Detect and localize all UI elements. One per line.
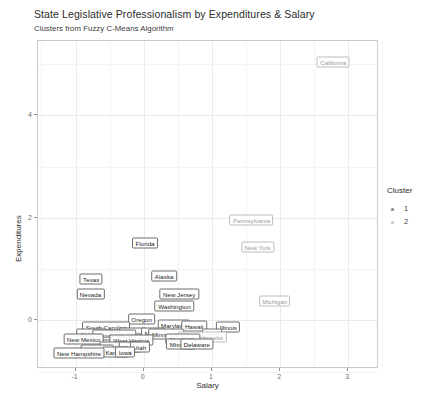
chart-title: State Legislative Professionalism by Exp…: [34, 8, 315, 20]
point-label: Delaware: [180, 339, 213, 350]
point-label: California: [317, 56, 350, 67]
x-tick-label: -1: [71, 373, 77, 380]
point-label: New Jersey: [160, 288, 199, 299]
point-label: Texas: [80, 274, 103, 285]
legend-item-label: 1: [404, 204, 408, 213]
gridline-minor-vertical: [41, 41, 42, 367]
y-tick-label: 4: [21, 111, 32, 118]
point-label: Florida: [132, 238, 158, 249]
point-label: Michigan: [259, 295, 291, 306]
gridline-minor-vertical: [314, 41, 315, 367]
legend-key-icon: a: [386, 202, 399, 215]
x-tick-label: 1: [209, 373, 213, 380]
x-tick-label: 3: [345, 373, 349, 380]
point-label: Pennsylvania: [230, 214, 274, 225]
legend-title: Cluster: [387, 186, 412, 195]
y-tick-label: 0: [21, 316, 32, 323]
gridline-horizontal: [38, 218, 377, 219]
gridline-horizontal: [38, 115, 377, 116]
gridline-minor-vertical: [110, 41, 111, 367]
gridline-minor-horizontal: [38, 372, 377, 373]
y-tick-mark: [34, 114, 37, 115]
x-tick-mark: [279, 368, 280, 371]
gridline-minor-vertical: [246, 41, 247, 367]
x-tick-mark: [347, 368, 348, 371]
x-tick-mark: [143, 368, 144, 371]
gridline-vertical: [348, 41, 349, 367]
point-label: New Hampshire: [53, 348, 104, 359]
y-tick-mark: [34, 319, 37, 320]
x-tick-mark: [75, 368, 76, 371]
gridline-vertical: [76, 41, 77, 367]
point-label: Nevada: [76, 288, 104, 299]
legend-item-label: 2: [404, 217, 408, 226]
gridline-vertical: [280, 41, 281, 367]
gridline-minor-vertical: [382, 41, 383, 367]
x-axis-title: Salary: [37, 381, 378, 390]
legend-key-icon: a: [386, 215, 399, 228]
chart-root: State Legislative Professionalism by Exp…: [0, 0, 437, 406]
gridline-minor-horizontal: [38, 167, 377, 168]
point-label: Washington: [155, 300, 194, 311]
chart-subtitle: Clusters from Fuzzy C-Means Algorithm: [34, 24, 174, 33]
plot-panel: CaliforniaPennsylvaniaNew YorkFloridaAla…: [37, 40, 378, 368]
point-label: Iowa: [115, 347, 135, 358]
legend-item[interactable]: a1: [386, 202, 412, 215]
gridline-minor-horizontal: [38, 269, 377, 270]
x-tick-label: 2: [277, 373, 281, 380]
x-tick-label: 0: [141, 373, 145, 380]
y-tick-mark: [34, 217, 37, 218]
x-tick-mark: [211, 368, 212, 371]
point-label: New Mexico: [63, 333, 104, 344]
y-axis-title: Expenditures: [14, 215, 23, 262]
point-label: Alaska: [151, 271, 177, 282]
gridline-minor-vertical: [178, 41, 179, 367]
legend: Cluster a1a2: [386, 186, 412, 228]
point-label: Oregon: [128, 314, 156, 325]
gridline-vertical: [212, 41, 213, 367]
point-label: New York: [241, 241, 274, 252]
legend-item[interactable]: a2: [386, 215, 412, 228]
legend-rows: a1a2: [386, 202, 412, 228]
